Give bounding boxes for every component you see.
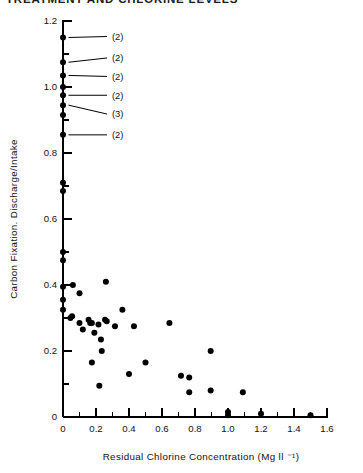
x-tick-label: 0.6 bbox=[155, 423, 168, 434]
data-point bbox=[80, 327, 86, 333]
y-tick-label: 0.6 bbox=[44, 213, 57, 224]
data-point bbox=[112, 323, 118, 329]
x-tick-label: 0.2 bbox=[89, 423, 102, 434]
annotation-leader-line bbox=[69, 58, 108, 62]
data-point bbox=[98, 336, 104, 342]
data-points bbox=[60, 35, 314, 419]
y-tick-label: 1.2 bbox=[44, 15, 57, 26]
x-tick-label: 1.2 bbox=[254, 423, 267, 434]
data-point bbox=[143, 360, 149, 366]
clipped-page-header: TREATMENT AND CHLORINE LEVELS bbox=[6, 0, 356, 7]
x-tick-label: 1.0 bbox=[221, 423, 234, 434]
data-point bbox=[60, 180, 66, 186]
chart-figure: TREATMENT AND CHLORINE LEVELS 00.20.40.6… bbox=[0, 0, 363, 473]
data-point bbox=[60, 257, 66, 263]
data-point bbox=[60, 102, 66, 108]
data-point bbox=[178, 373, 184, 379]
annotation-count-label: (3) bbox=[112, 108, 123, 119]
annotation-leader-line bbox=[69, 75, 108, 76]
annotation-leader-line bbox=[69, 37, 108, 38]
data-point bbox=[308, 412, 314, 418]
data-point bbox=[60, 307, 66, 313]
data-point bbox=[60, 132, 66, 138]
data-point bbox=[131, 323, 137, 329]
data-point bbox=[166, 320, 172, 326]
annotation-count-label: (2) bbox=[112, 52, 123, 63]
data-point bbox=[67, 315, 73, 321]
x-tick-label: 1.6 bbox=[320, 423, 333, 434]
data-point bbox=[60, 284, 66, 290]
x-tick-label: 0.8 bbox=[188, 423, 201, 434]
axis-tick-labels: 00.20.40.60.81.01.200.20.40.60.81.01.21.… bbox=[44, 15, 334, 434]
annotation-count-label: (2) bbox=[112, 90, 123, 101]
data-point bbox=[60, 59, 66, 65]
data-point bbox=[70, 282, 76, 288]
data-point bbox=[60, 297, 66, 303]
data-point bbox=[119, 307, 125, 313]
annotation-count-label: (2) bbox=[112, 71, 123, 82]
x-tick-label: 0.4 bbox=[122, 423, 136, 434]
y-tick-label: 0.8 bbox=[44, 147, 57, 158]
data-point bbox=[89, 360, 95, 366]
data-point bbox=[208, 388, 214, 394]
data-point bbox=[60, 72, 66, 78]
data-point bbox=[60, 188, 66, 194]
y-axis-title: Carbon Fixation. Discharge/Intake bbox=[8, 139, 19, 299]
data-point bbox=[60, 92, 66, 98]
data-point bbox=[186, 374, 192, 380]
data-point bbox=[104, 318, 110, 324]
y-tick-label: 0.2 bbox=[44, 345, 57, 356]
x-tick-label: 0 bbox=[60, 423, 65, 434]
y-tick-label: 0.4 bbox=[44, 279, 58, 290]
data-point bbox=[103, 279, 109, 285]
data-point bbox=[96, 383, 102, 389]
count-annotations: (2)(2)(2)(2)(3)(2) bbox=[69, 31, 124, 140]
data-point bbox=[89, 320, 95, 326]
annotation-leader-line bbox=[69, 105, 108, 114]
data-point bbox=[95, 322, 101, 328]
scatter-plot: 00.20.40.60.81.01.200.20.40.60.81.01.21.… bbox=[0, 0, 363, 473]
data-point bbox=[91, 330, 97, 336]
data-point bbox=[208, 348, 214, 354]
data-point bbox=[258, 411, 264, 417]
data-point bbox=[77, 290, 83, 296]
data-point bbox=[60, 35, 66, 41]
data-point bbox=[240, 389, 246, 395]
annotation-count-label: (2) bbox=[112, 129, 123, 140]
axes bbox=[63, 21, 327, 417]
annotation-count-label: (2) bbox=[112, 31, 123, 42]
data-point bbox=[126, 371, 132, 377]
data-point bbox=[60, 249, 66, 255]
y-tick-label: 1.0 bbox=[44, 81, 57, 92]
y-tick-label: 0 bbox=[52, 411, 57, 422]
data-point bbox=[60, 112, 66, 118]
axis-ticks bbox=[63, 54, 311, 417]
data-point bbox=[99, 348, 105, 354]
data-point bbox=[225, 412, 231, 418]
data-point bbox=[60, 84, 66, 90]
data-point bbox=[186, 389, 192, 395]
x-axis-title: Residual Chlorine Concentration (Mg ll ⁻… bbox=[103, 451, 300, 462]
data-point bbox=[77, 320, 83, 326]
x-tick-label: 1.4 bbox=[287, 423, 301, 434]
